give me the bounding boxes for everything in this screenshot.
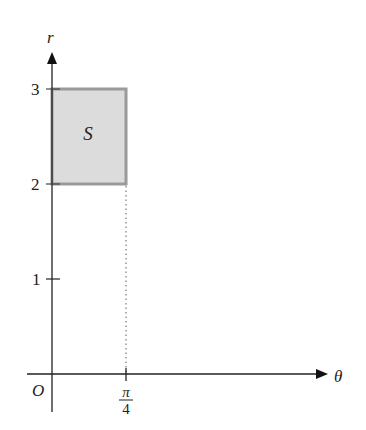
theta-axis-arrow-icon	[316, 369, 328, 379]
r-tick-label-3: 3	[31, 80, 40, 99]
r-axis-arrow-icon	[47, 52, 57, 64]
theta-tick-denominator: 4	[122, 401, 130, 417]
r-tick-label-2: 2	[31, 175, 40, 194]
r-tick-label-1: 1	[32, 270, 41, 289]
region-label: S	[83, 123, 93, 144]
diagram-svg: r θ O 1 2 3 π 4 S	[0, 0, 366, 430]
diagram-canvas: r θ O 1 2 3 π 4 S	[0, 0, 366, 430]
r-axis-label: r	[47, 28, 54, 47]
origin-label: O	[32, 381, 44, 400]
theta-tick-numerator: π	[122, 384, 130, 400]
theta-axis-label: θ	[334, 367, 342, 386]
